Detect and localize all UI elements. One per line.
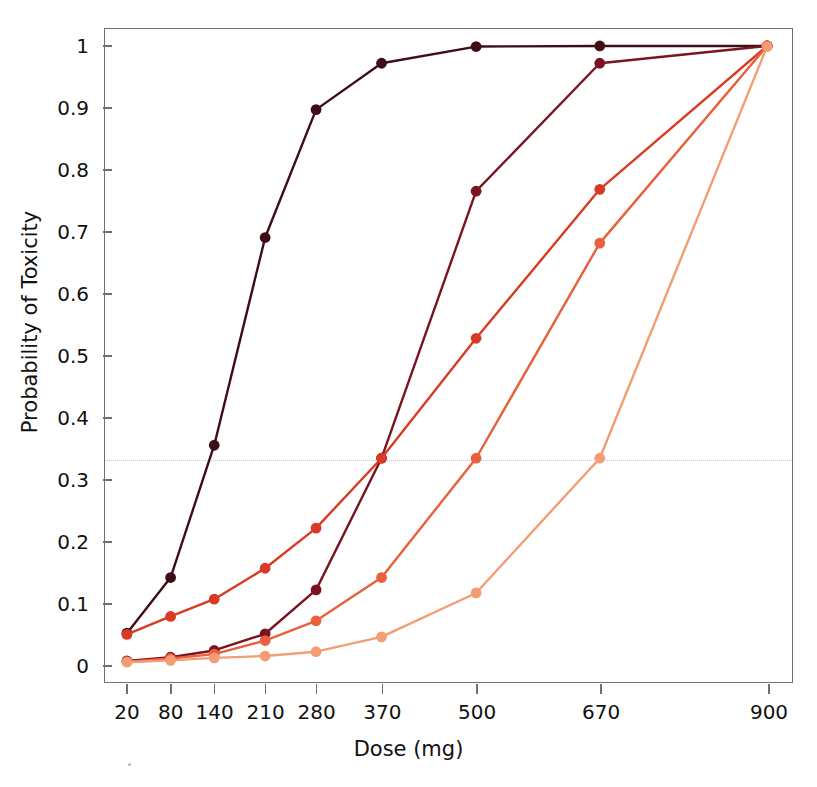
x-tick-mark	[476, 684, 478, 694]
x-tick-mark	[265, 684, 267, 694]
x-tick-mark	[214, 684, 216, 694]
x-tick-mark	[126, 684, 128, 694]
y-axis-title: Probability of Toxicity	[18, 152, 42, 492]
y-tick-mark	[103, 479, 112, 481]
y-tick-mark	[103, 45, 112, 47]
x-tick-mark	[316, 684, 318, 694]
y-tick-mark	[103, 293, 112, 295]
y-tick-mark	[103, 417, 112, 419]
x-tick-label: 210	[247, 700, 285, 724]
x-tick-mark	[170, 684, 172, 694]
x-tick-mark	[600, 684, 602, 694]
y-tick-label: 0.9	[57, 96, 89, 120]
x-tick-label: 500	[458, 700, 496, 724]
y-tick-mark	[103, 603, 112, 605]
y-tick-label: 0.3	[57, 468, 89, 492]
y-tick-mark	[103, 169, 112, 171]
x-tick-label: 370	[363, 700, 401, 724]
y-tick-label: 1	[76, 34, 89, 58]
y-tick-label: 0.2	[57, 530, 89, 554]
x-tick-label: 80	[158, 700, 183, 724]
toxicity-dose-chart: 00.10.20.30.40.50.60.70.80.91 2080140210…	[0, 0, 817, 787]
y-tick-label: 0	[76, 654, 89, 678]
page-speck	[128, 763, 131, 766]
x-tick-mark	[382, 684, 384, 694]
x-tick-label: 280	[298, 700, 336, 724]
y-tick-label: 0.5	[57, 344, 89, 368]
plot-area: 00.10.20.30.40.50.60.70.80.91 2080140210…	[104, 28, 793, 683]
y-axis-ticks: 00.10.20.30.40.50.60.70.80.91	[105, 29, 792, 682]
x-tick-label: 900	[750, 700, 788, 724]
x-tick-label: 670	[582, 700, 620, 724]
y-tick-label: 0.4	[57, 406, 89, 430]
y-tick-mark	[103, 355, 112, 357]
x-tick-label: 20	[114, 700, 139, 724]
y-tick-label: 0.1	[57, 592, 89, 616]
y-tick-mark	[103, 665, 112, 667]
y-tick-label: 0.6	[57, 282, 89, 306]
y-tick-label: 0.7	[57, 220, 89, 244]
y-tick-label: 0.8	[57, 158, 89, 182]
x-tick-mark	[768, 684, 770, 694]
y-tick-mark	[103, 231, 112, 233]
x-tick-label: 140	[195, 700, 233, 724]
x-axis-title: Dose (mg)	[0, 737, 817, 761]
y-tick-mark	[103, 107, 112, 109]
y-tick-mark	[103, 541, 112, 543]
